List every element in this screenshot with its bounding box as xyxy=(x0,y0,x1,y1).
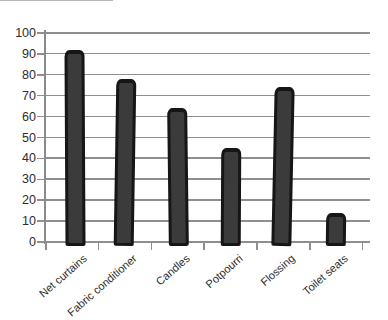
gridline xyxy=(45,32,371,34)
y-tick-label: 0 xyxy=(1,234,36,250)
gridline xyxy=(45,178,371,180)
gridline xyxy=(45,157,371,159)
x-axis-tick xyxy=(256,242,258,250)
y-tick-label: 70 xyxy=(1,88,36,104)
bar-chart-figure: 0102030405060708090100Net curtainsFabric… xyxy=(0,0,388,320)
bar-potpourri xyxy=(221,148,242,246)
y-tick-label: 30 xyxy=(1,171,36,187)
x-axis-tick xyxy=(98,242,100,250)
gridline xyxy=(45,53,371,55)
bar-net-curtains xyxy=(64,50,85,246)
x-axis-tick xyxy=(309,242,311,250)
y-tick-label: 10 xyxy=(1,213,36,229)
bar-toilet-seats xyxy=(326,213,346,247)
y-tick-label: 40 xyxy=(1,150,36,166)
y-axis-line xyxy=(44,30,46,244)
gridline xyxy=(45,137,371,139)
gridline xyxy=(45,116,371,118)
x-axis-tick xyxy=(151,242,153,250)
x-axis-tick xyxy=(45,242,47,250)
y-tick-label: 20 xyxy=(1,192,36,208)
x-axis-tick xyxy=(203,242,205,250)
bar-fabric-conditioner xyxy=(113,79,136,246)
gridline xyxy=(45,199,371,201)
y-tick-label: 90 xyxy=(1,46,36,62)
plot-area: 0102030405060708090100Net curtainsFabric… xyxy=(0,0,388,320)
x-axis-tick xyxy=(362,242,364,250)
y-tick-label: 100 xyxy=(1,25,36,41)
y-tick-label: 50 xyxy=(1,130,36,146)
bar-candles xyxy=(167,108,189,246)
gridline xyxy=(45,241,371,243)
y-tick-label: 60 xyxy=(1,109,36,125)
gridline xyxy=(45,220,371,222)
gridline xyxy=(45,74,371,76)
y-tick-label: 80 xyxy=(1,67,36,83)
gridline xyxy=(45,95,371,97)
bar-flossing xyxy=(271,87,294,246)
